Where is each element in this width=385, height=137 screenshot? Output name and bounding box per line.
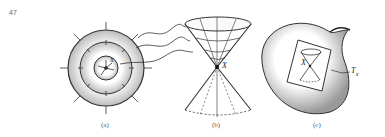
panel-c-point-label: X [301,58,306,67]
tangent-subscript: X [355,72,358,77]
panel-b-point-label: X [222,61,227,70]
caption-a: (a) [101,121,109,129]
caption-b: (b) [212,121,220,129]
figure-diagram [0,0,385,137]
panel-b-light-cone [185,17,251,117]
panel-a-point-label: X [110,57,114,63]
tangent-space-label: TX [351,66,359,77]
panel-a-concentric-spheres [60,22,152,114]
caption-c: (c) [313,121,321,129]
panel-c-manifold-tangent-space [262,23,350,114]
